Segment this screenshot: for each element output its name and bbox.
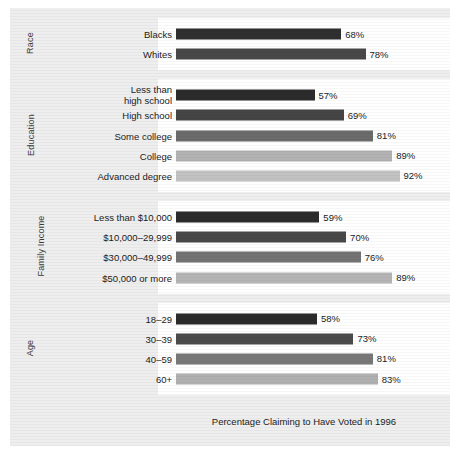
panel-race: Blacks68%Whites78% bbox=[158, 18, 450, 70]
panel-education: Less thanhigh school57%High school69%Som… bbox=[158, 79, 450, 192]
group-label-family-income: Family Income bbox=[10, 241, 50, 251]
bar-value-label: 58% bbox=[321, 313, 340, 324]
group-label-race: Race bbox=[10, 38, 50, 48]
bar-track: 81% bbox=[176, 353, 373, 364]
group-label-age: Age bbox=[10, 343, 50, 353]
bar bbox=[176, 252, 361, 263]
bar-row: 40–5981% bbox=[158, 352, 450, 366]
category-label: 40–59 bbox=[146, 353, 172, 364]
bar-track: 78% bbox=[176, 49, 366, 60]
bar-track: 68% bbox=[176, 29, 341, 40]
bar-value-label: 83% bbox=[382, 374, 401, 385]
bar bbox=[176, 130, 373, 141]
panel-family-income: Less than $10,00059%$10,000–29,99970%$30… bbox=[158, 201, 450, 294]
bar-track: 89% bbox=[176, 272, 392, 283]
bar-track: 89% bbox=[176, 150, 392, 161]
group-label-text: Race bbox=[25, 32, 35, 54]
bar-row: Blacks68% bbox=[158, 27, 450, 41]
bar-row: $10,000–29,99970% bbox=[158, 230, 450, 244]
category-label: High school bbox=[122, 110, 172, 121]
bar-row: Less thanhigh school57% bbox=[158, 88, 450, 102]
group-label-text: Age bbox=[25, 340, 35, 357]
bar-value-label: 89% bbox=[396, 272, 415, 283]
bar bbox=[176, 90, 315, 101]
category-label: Whites bbox=[143, 49, 172, 60]
category-label: 30–39 bbox=[146, 333, 172, 344]
bar-row: Some college81% bbox=[158, 129, 450, 143]
bar-track: 58% bbox=[176, 313, 317, 324]
category-label: Advanced degree bbox=[98, 170, 172, 181]
bar-track: 59% bbox=[176, 212, 319, 223]
group-label-education: Education bbox=[10, 130, 50, 140]
bar-value-label: 76% bbox=[365, 252, 384, 263]
group-label-text: Education bbox=[26, 114, 36, 156]
bar-value-label: 92% bbox=[404, 170, 423, 181]
bar-value-label: 70% bbox=[350, 232, 369, 243]
bar bbox=[176, 170, 400, 181]
bar-row: College89% bbox=[158, 149, 450, 163]
bar bbox=[176, 29, 341, 40]
bar-track: 57% bbox=[176, 90, 315, 101]
bar bbox=[176, 212, 319, 223]
panel-age: 18–2958%30–3973%40–5981%60+83% bbox=[158, 303, 450, 396]
category-label: 60+ bbox=[156, 374, 172, 385]
group-label-text: Family Income bbox=[36, 216, 46, 277]
bar bbox=[176, 374, 378, 385]
bar-row: 18–2958% bbox=[158, 312, 450, 326]
bar-value-label: 68% bbox=[345, 29, 364, 40]
bar bbox=[176, 49, 366, 60]
bar-row: Whites78% bbox=[158, 47, 450, 61]
category-label: $10,000–29,999 bbox=[103, 232, 172, 243]
bar-value-label: 81% bbox=[377, 130, 396, 141]
category-label: Less than $10,000 bbox=[94, 212, 172, 223]
bar-track: 92% bbox=[176, 170, 400, 181]
bar bbox=[176, 333, 353, 344]
bar-track: 69% bbox=[176, 110, 344, 121]
bar-track: 83% bbox=[176, 374, 378, 385]
bar bbox=[176, 313, 317, 324]
category-label: Blacks bbox=[144, 29, 172, 40]
bar-track: 70% bbox=[176, 232, 346, 243]
bar-value-label: 73% bbox=[357, 333, 376, 344]
category-label: Some college bbox=[114, 130, 172, 141]
bar-value-label: 89% bbox=[396, 150, 415, 161]
bar-row: 60+83% bbox=[158, 372, 450, 386]
chart-frame: RaceBlacks68%Whites78%EducationLess than… bbox=[10, 8, 450, 446]
bar bbox=[176, 232, 346, 243]
category-label: $30,000–49,999 bbox=[103, 252, 172, 263]
bar-track: 73% bbox=[176, 333, 353, 344]
category-label: College bbox=[140, 150, 172, 161]
bar-row: High school69% bbox=[158, 108, 450, 122]
bar-row: 30–3973% bbox=[158, 332, 450, 346]
bar-row: Less than $10,00059% bbox=[158, 210, 450, 224]
bar-row: Advanced degree92% bbox=[158, 169, 450, 183]
category-label: Less thanhigh school bbox=[124, 85, 172, 106]
bar bbox=[176, 272, 392, 283]
category-label: $50,000 or more bbox=[102, 272, 172, 283]
bar bbox=[176, 150, 392, 161]
bar bbox=[176, 353, 373, 364]
category-label: 18–29 bbox=[146, 313, 172, 324]
bar-value-label: 57% bbox=[319, 90, 338, 101]
bar-track: 76% bbox=[176, 252, 361, 263]
chart-caption: Percentage Claiming to Have Voted in 199… bbox=[158, 416, 450, 427]
bar-value-label: 59% bbox=[323, 212, 342, 223]
bar-row: $50,000 or more89% bbox=[158, 271, 450, 285]
bar-value-label: 81% bbox=[377, 353, 396, 364]
bar-value-label: 78% bbox=[370, 49, 389, 60]
bar-value-label: 69% bbox=[348, 110, 367, 121]
bar-row: $30,000–49,99976% bbox=[158, 250, 450, 264]
bar-track: 81% bbox=[176, 130, 373, 141]
bar bbox=[176, 110, 344, 121]
